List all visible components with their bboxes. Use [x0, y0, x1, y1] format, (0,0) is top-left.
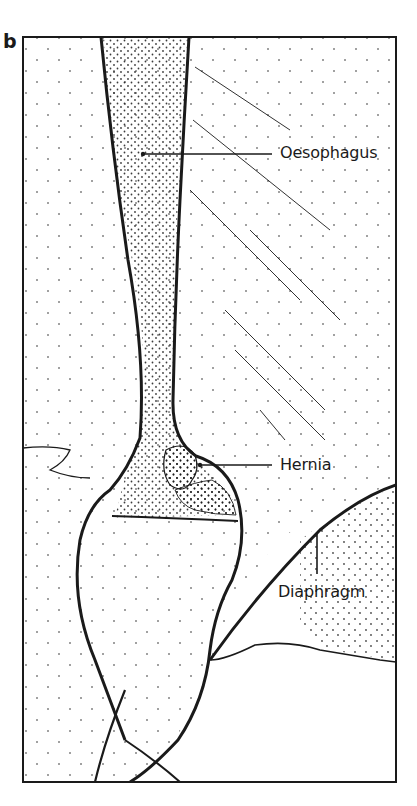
label-diaphragm: Diaphragm — [278, 582, 365, 601]
label-hernia: Hernia — [280, 455, 331, 474]
hiatus-hernia-diagram — [0, 0, 417, 806]
label-oesophagus: Oesophagus — [280, 143, 377, 162]
